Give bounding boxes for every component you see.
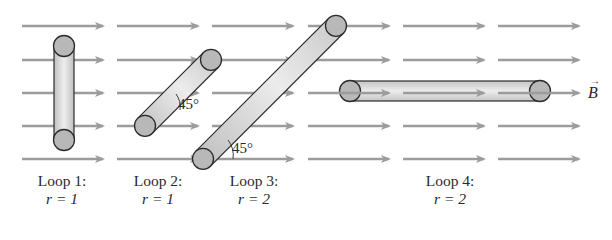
loop-1-name: Loop 1: — [17, 172, 107, 190]
loop-4-shape — [340, 81, 551, 102]
loop-2-name: Loop 2: — [113, 172, 203, 190]
loop-4-name: Loop 4: — [405, 172, 495, 190]
loop-2-radius: r = 1 — [113, 190, 203, 208]
loop-2-caption: Loop 2: r = 1 — [113, 172, 203, 208]
loop-1-radius: r = 1 — [17, 190, 107, 208]
vector-arrow-mark: → — [590, 75, 600, 86]
loop-4-radius: r = 2 — [405, 190, 495, 208]
field-symbol: B — [588, 84, 598, 101]
loop-3-caption: Loop 3: r = 2 — [209, 172, 299, 208]
loop-1-shape — [54, 36, 75, 151]
magnetic-field-label: → B — [588, 84, 598, 102]
loop-2-angle-label: 45° — [178, 96, 199, 113]
loop-3-radius: r = 2 — [209, 190, 299, 208]
loop-3-angle-label: 45° — [232, 140, 253, 157]
loop-4-caption: Loop 4: r = 2 — [405, 172, 495, 208]
loop-1-caption: Loop 1: r = 1 — [17, 172, 107, 208]
loop-3-name: Loop 3: — [209, 172, 299, 190]
